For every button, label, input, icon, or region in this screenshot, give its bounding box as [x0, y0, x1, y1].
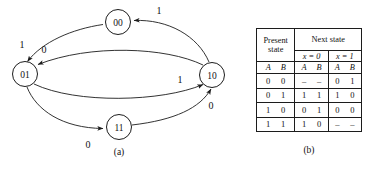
cell-next-x1-row1: 1 0	[328, 88, 361, 103]
value-next-x0-b-row2: 1	[316, 105, 322, 115]
state-table-wrapper: Present state Next state x = 0 x = 1 A	[256, 28, 362, 132]
state-node-00-label: 00	[113, 18, 123, 28]
header-var-b-x1: B	[349, 63, 355, 72]
value-present-b-row3: 1	[280, 119, 286, 129]
cell-next-x0-row1: 1 1	[295, 88, 328, 103]
value-next-x0-a-row0: –	[301, 76, 307, 86]
caption-part-a: (a)	[114, 147, 125, 158]
value-next-x1-b-row2: 0	[349, 105, 355, 115]
table-header-row-3: A B A B A B	[257, 62, 362, 74]
header-var-b-x0: B	[316, 63, 322, 72]
state-table-head: Present state Next state x = 0 x = 1 A	[257, 29, 362, 74]
caption-part-b: (b)	[256, 145, 362, 155]
cell-present-row3: 1 1	[257, 117, 295, 132]
cell-next-x0-row2: 0 1	[295, 103, 328, 118]
header-present-state-line1: Present	[257, 36, 294, 46]
value-next-x1-b-row0: 1	[349, 76, 355, 86]
cell-present-row1: 0 1	[257, 88, 295, 103]
value-present-a-row3: 1	[265, 119, 271, 129]
state-node-11[interactable]: 11	[107, 115, 132, 140]
header-vars-present: A B	[257, 62, 295, 74]
edge-10-to-01	[38, 50, 203, 65]
edge-label-10-to-01: 0	[42, 44, 47, 55]
value-next-x1-b-row1: 0	[349, 90, 355, 100]
header-x-equals-0: x = 0	[295, 51, 328, 62]
table-row: 0 1 1 1 1 0	[257, 88, 362, 103]
edge-01-to-11	[27, 87, 103, 129]
state-node-01[interactable]: 01	[13, 62, 38, 87]
edge-label-00-to-01: 1	[20, 39, 25, 50]
value-present-b-row0: 0	[280, 76, 286, 86]
table-row: 1 0 0 1 0 0	[257, 103, 362, 118]
header-var-a-x0: A	[301, 63, 307, 72]
cell-present-row2: 1 0	[257, 103, 295, 118]
table-row: 0 0 – – 0 1	[257, 74, 362, 89]
state-node-01-label: 01	[20, 70, 30, 80]
value-next-x0-a-row1: 1	[301, 90, 307, 100]
value-next-x0-b-row3: 0	[316, 119, 322, 129]
value-present-a-row0: 0	[265, 76, 271, 86]
edge-label-01-to-11: 0	[86, 139, 91, 150]
header-next-state-label: Next state	[312, 35, 345, 44]
cell-present-row0: 0 0	[257, 74, 295, 89]
header-vars-x1: A B	[328, 62, 361, 74]
header-var-a-x1: A	[334, 63, 340, 72]
cell-next-x1-row0: 0 1	[328, 74, 361, 89]
value-next-x0-a-row3: 1	[301, 119, 307, 129]
value-next-x0-b-row0: –	[316, 76, 322, 86]
value-next-x1-a-row2: 0	[334, 105, 340, 115]
value-next-x0-a-row2: 0	[301, 105, 307, 115]
state-node-00[interactable]: 00	[106, 10, 131, 35]
value-present-a-row1: 0	[265, 90, 271, 100]
value-next-x1-a-row0: 0	[334, 76, 340, 86]
cell-next-x0-row3: 1 0	[295, 117, 328, 132]
edge-label-01-to-10: 1	[178, 74, 183, 85]
state-node-10[interactable]: 10	[200, 63, 225, 88]
state-node-11-label: 11	[114, 123, 123, 133]
edge-label-10-to-00: 1	[157, 5, 162, 16]
value-next-x1-a-row1: 1	[334, 90, 340, 100]
state-node-10-label: 10	[207, 71, 217, 81]
value-present-b-row2: 0	[280, 105, 286, 115]
edge-label-11-to-10: 0	[209, 100, 214, 111]
state-table-body: 0 0 – – 0 1	[257, 74, 362, 132]
header-var-b-present: B	[280, 63, 286, 72]
header-present-state: Present state	[257, 29, 295, 62]
table-row: 1 1 1 0 – –	[257, 117, 362, 132]
header-next-state: Next state	[295, 29, 362, 51]
edge-11-to-10	[132, 89, 211, 125]
value-next-x1-b-row3: –	[349, 119, 355, 129]
edge-10-to-00	[134, 20, 209, 62]
value-present-a-row2: 1	[265, 105, 271, 115]
cell-next-x1-row3: – –	[328, 117, 361, 132]
cell-next-x0-row0: – –	[295, 74, 328, 89]
table-header-row-1: Present state Next state	[257, 29, 362, 51]
value-present-b-row1: 1	[280, 90, 286, 100]
state-table: Present state Next state x = 0 x = 1 A	[256, 28, 362, 132]
header-present-state-line2: state	[257, 45, 294, 55]
cell-next-x1-row2: 0 0	[328, 103, 361, 118]
value-next-x0-b-row1: 1	[316, 90, 322, 100]
header-var-a-present: A	[265, 63, 271, 72]
figure-container: 00 01 10 11 1 1 0 1 0 0 (a)	[0, 0, 370, 169]
state-diagram: 00 01 10 11 1 1 0 1 0 0 (a)	[0, 0, 245, 169]
header-vars-x0: A B	[295, 62, 328, 74]
edge-01-to-10	[34, 84, 203, 98]
value-next-x1-a-row3: –	[334, 119, 340, 129]
header-x-equals-1: x = 1	[328, 51, 361, 62]
